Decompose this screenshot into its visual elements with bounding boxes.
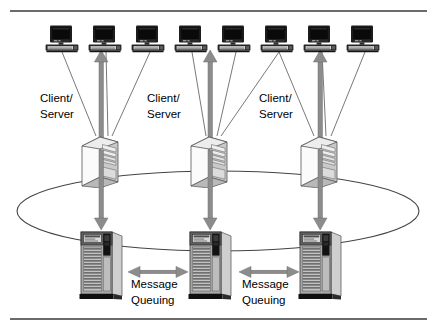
- desktop-computer-icon: [46, 26, 79, 53]
- client-server-up-arrows: [94, 50, 327, 142]
- message-queuing-label-left-line1: Message: [131, 278, 178, 290]
- desktop-computer-icon: [304, 26, 337, 53]
- desktop-computer-icon: [175, 26, 208, 53]
- diagram-canvas: Client/ Server Client/ Server Client/ Se…: [0, 0, 437, 331]
- message-queue-arrow-right-pair: [239, 266, 299, 277]
- message-queuing-label-right-line1: Message: [242, 278, 289, 290]
- tier1-desktop-clients: [46, 26, 380, 53]
- client-server-label-center-line2: Server: [147, 108, 181, 120]
- client-to-server-arrow-up-right: [313, 50, 327, 142]
- mainframe-server-icon: [189, 232, 232, 300]
- message-queuing-label-left-line2: Queuing: [131, 294, 174, 306]
- client-server-label-left-line1: Client/: [40, 92, 73, 104]
- message-queuing-diagram: Client/ Server Client/ Server Client/ Se…: [0, 0, 437, 331]
- desktop-computer-icon: [261, 26, 294, 53]
- mainframe-server-icon: [299, 232, 342, 300]
- client-server-labels: Client/ Server Client/ Server Client/ Se…: [40, 92, 293, 120]
- client-server-label-center-line1: Client/: [147, 92, 180, 104]
- client-server-label-left-line2: Server: [40, 108, 74, 120]
- desktop-computer-icon: [89, 26, 122, 53]
- desktop-computer-icon: [347, 26, 380, 53]
- tier3-mainframe-servers: [80, 232, 342, 300]
- message-queue-arrow-left-pair: [128, 266, 188, 277]
- client-server-label-right-line1: Client/: [259, 92, 292, 104]
- desktop-computer-icon: [132, 26, 165, 53]
- client-server-label-right-line2: Server: [259, 108, 293, 120]
- server-mainframe-down-arrows: [94, 150, 327, 230]
- message-queuing-label-right-line2: Queuing: [242, 294, 285, 306]
- client-to-server-arrow-up-center: [203, 50, 217, 142]
- mainframe-server-icon: [80, 232, 123, 300]
- desktop-computer-icon: [218, 26, 251, 53]
